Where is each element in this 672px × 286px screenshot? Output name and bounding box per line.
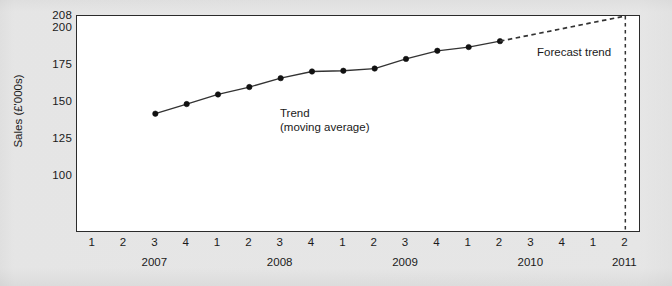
data-point-2008-Q1 [215, 92, 220, 97]
annotation-forecast-label: Forecast trend [537, 45, 611, 59]
x-tick-9: 1 [329, 236, 355, 248]
y-axis-title-wrap: Sales (£'000s) [0, 0, 40, 286]
x-tick-4: 4 [173, 236, 199, 248]
x-year-2010: 2010 [500, 256, 560, 268]
y-axis-title: Sales (£'000s) [12, 41, 24, 181]
data-point-2010-Q1 [466, 44, 471, 49]
data-point-2008-Q2 [247, 84, 252, 89]
x-tick-12: 4 [423, 236, 449, 248]
x-axis-tick-labels: 123412341234123412 [76, 236, 640, 254]
x-tick-17: 1 [580, 236, 606, 248]
data-point-2009-Q2 [372, 66, 377, 71]
x-tick-2: 2 [110, 236, 136, 248]
x-year-2011: 2011 [594, 256, 654, 268]
x-tick-15: 3 [517, 236, 543, 248]
data-point-2008-Q4 [309, 69, 314, 74]
x-tick-5: 1 [204, 236, 230, 248]
data-point-2009-Q4 [435, 48, 440, 53]
x-tick-10: 2 [361, 236, 387, 248]
annotation-trend: Trend (moving average) [280, 106, 369, 134]
x-year-2008: 2008 [250, 256, 310, 268]
x-tick-11: 3 [392, 236, 418, 248]
x-year-2009: 2009 [375, 256, 435, 268]
x-year-2007: 2007 [124, 256, 184, 268]
x-tick-13: 1 [455, 236, 481, 248]
data-point-2009-Q3 [403, 56, 408, 61]
x-tick-7: 3 [267, 236, 293, 248]
chart-canvas: 208200175150125100 Sales (£'000s) Trend … [0, 0, 672, 286]
annotation-trend-line1: Trend [280, 106, 369, 120]
data-point-2007-Q4 [184, 101, 189, 106]
x-tick-14: 2 [486, 236, 512, 248]
data-point-2008-Q3 [278, 75, 283, 80]
x-tick-8: 4 [298, 236, 324, 248]
x-tick-1: 1 [79, 236, 105, 248]
x-tick-16: 4 [549, 236, 575, 248]
figure-container: 208200175150125100 Sales (£'000s) Trend … [0, 0, 672, 286]
annotation-trend-line2: (moving average) [280, 120, 369, 134]
x-tick-18: 2 [611, 236, 637, 248]
forecast-trend-line [500, 16, 625, 41]
x-tick-3: 3 [141, 236, 167, 248]
annotation-forecast: Forecast trend [537, 45, 611, 59]
data-point-2007-Q3 [153, 111, 158, 116]
x-tick-6: 2 [235, 236, 261, 248]
x-axis-year-labels: 20072008200920102011 [76, 256, 672, 276]
data-point-2009-Q1 [341, 68, 346, 73]
trend-line [155, 41, 500, 114]
